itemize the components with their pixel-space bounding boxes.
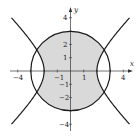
x-tick-label: 4 — [121, 74, 126, 82]
y-tick-label: 4 — [63, 14, 68, 22]
y-tick-label: −4 — [59, 121, 70, 129]
y-axis-arrow-icon — [69, 7, 72, 12]
conic-plot: y x −4 −1 1 4 4 2 1 −1 −2 −4 — [0, 0, 140, 138]
x-axis-arrow-icon — [128, 69, 133, 72]
y-tick-label: −2 — [59, 94, 69, 102]
x-axis-label: x — [130, 60, 134, 68]
y-tick-label: 2 — [63, 41, 67, 49]
x-tick-label: −4 — [13, 74, 24, 82]
y-tick-label: −1 — [59, 81, 69, 89]
x-tick-label: 1 — [82, 74, 86, 82]
y-axis-label: y — [73, 6, 79, 14]
y-tick-label: 1 — [63, 54, 67, 62]
